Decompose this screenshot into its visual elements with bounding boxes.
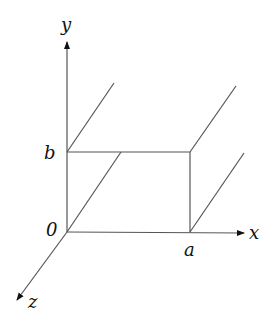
x-axis-label: x [249,224,259,242]
z-axis [17,232,67,300]
b-label: b [44,144,56,162]
y-axis-label: y [61,16,71,34]
origin-label: 0 [46,221,57,239]
diag-from-b [67,83,114,152]
a-label: a [184,241,195,259]
z-axis-label: z [28,293,37,311]
axes-drawing [0,0,271,324]
diag-from-top-right [190,86,236,152]
x-axis [67,232,244,233]
diagram-canvas: y x z 0 b a [0,0,271,324]
diag-from-a [190,153,244,232]
diag-from-origin [67,152,121,232]
